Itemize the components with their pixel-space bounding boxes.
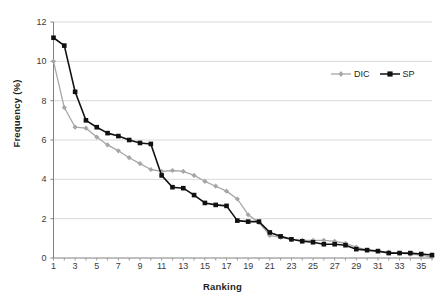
data-point-sp <box>267 230 272 235</box>
data-point-dic <box>170 168 175 173</box>
x-tick-label: 7 <box>109 261 127 271</box>
x-tick-label: 11 <box>153 261 171 271</box>
data-point-dic <box>62 105 67 110</box>
data-point-sp <box>149 142 154 147</box>
series-line-dic <box>54 61 433 257</box>
x-tick-label: 1 <box>45 261 63 271</box>
x-axis-title: Ranking <box>0 281 445 292</box>
x-tick-label: 13 <box>174 261 192 271</box>
data-point-sp <box>397 251 402 256</box>
x-tick-label: 9 <box>131 261 149 271</box>
data-point-sp <box>159 173 164 178</box>
y-tick-label: 0 <box>25 253 47 263</box>
y-tick-label: 12 <box>25 17 47 27</box>
x-tick-label: 31 <box>369 261 387 271</box>
x-tick-label: 25 <box>304 261 322 271</box>
data-point-sp <box>419 252 424 257</box>
data-point-sp <box>181 186 186 191</box>
data-point-dic <box>73 125 78 130</box>
data-point-dic <box>213 184 218 189</box>
data-point-sp <box>51 35 56 40</box>
data-point-dic <box>181 169 186 174</box>
data-point-sp <box>289 237 294 242</box>
y-axis-title: Frequency (%) <box>11 54 22 174</box>
line-chart: Frequency (%) Ranking 024681012 13579111… <box>0 0 445 303</box>
data-point-sp <box>257 219 262 224</box>
data-point-sp <box>94 125 99 130</box>
data-point-sp <box>246 219 251 224</box>
data-point-sp <box>116 134 121 139</box>
x-tick-label: 35 <box>412 261 430 271</box>
data-point-sp <box>332 242 337 247</box>
x-tick-label: 15 <box>196 261 214 271</box>
data-point-sp <box>203 201 208 206</box>
data-point-sp <box>386 251 391 256</box>
data-point-sp <box>354 247 359 252</box>
data-point-sp <box>105 131 110 136</box>
y-tick-label: 8 <box>25 96 47 106</box>
plot-area <box>0 0 445 303</box>
data-point-sp <box>73 90 78 95</box>
data-point-sp <box>376 249 381 254</box>
legend-label-sp: SP <box>403 69 415 79</box>
data-point-sp <box>224 204 229 209</box>
data-point-sp <box>138 141 143 146</box>
data-point-sp <box>213 203 218 208</box>
data-point-dic <box>191 173 196 178</box>
data-point-dic <box>148 167 153 172</box>
data-point-sp <box>192 193 197 198</box>
x-tick-label: 19 <box>239 261 257 271</box>
x-tick-label: 17 <box>218 261 236 271</box>
legend: DIC SP <box>330 69 415 79</box>
y-tick-label: 4 <box>25 174 47 184</box>
data-point-sp <box>170 185 175 190</box>
data-point-dic <box>51 59 56 64</box>
legend-label-dic: DIC <box>354 69 370 79</box>
data-point-sp <box>84 118 89 123</box>
legend-swatch-sp-icon <box>379 69 401 79</box>
x-tick-label: 29 <box>347 261 365 271</box>
data-point-sp <box>430 253 435 258</box>
legend-swatch-dic-icon <box>330 69 352 79</box>
y-tick-label: 10 <box>25 56 47 66</box>
x-tick-label: 21 <box>261 261 279 271</box>
x-tick-label: 5 <box>88 261 106 271</box>
data-point-sp <box>62 43 67 48</box>
data-point-sp <box>365 248 370 253</box>
data-point-sp <box>408 251 413 256</box>
data-point-sp <box>300 239 305 244</box>
data-point-sp <box>235 218 240 223</box>
data-point-sp <box>127 138 132 143</box>
y-tick-label: 6 <box>25 135 47 145</box>
legend-item-sp: SP <box>379 69 415 79</box>
legend-item-dic: DIC <box>330 69 370 79</box>
data-point-sp <box>278 234 283 239</box>
data-point-sp <box>343 243 348 248</box>
x-tick-label: 23 <box>282 261 300 271</box>
x-tick-label: 27 <box>326 261 344 271</box>
data-point-sp <box>311 240 316 245</box>
data-point-dic <box>137 161 142 166</box>
x-tick-label: 33 <box>391 261 409 271</box>
y-tick-label: 2 <box>25 214 47 224</box>
data-point-sp <box>322 242 327 247</box>
x-tick-label: 3 <box>66 261 84 271</box>
